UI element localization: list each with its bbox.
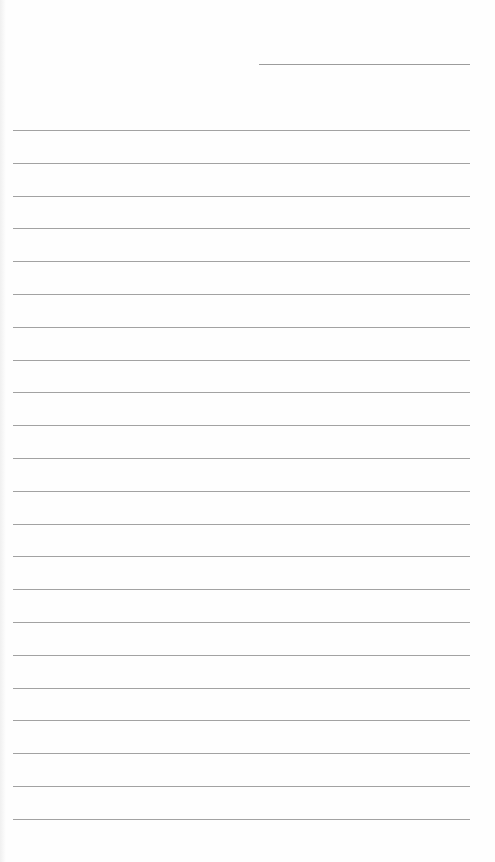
ruled-line (13, 228, 470, 229)
ruled-line (13, 392, 470, 393)
ruled-line (13, 163, 470, 164)
ruled-line (13, 622, 470, 623)
ruled-line (13, 524, 470, 525)
ruled-line (13, 819, 470, 820)
ruled-line (13, 458, 470, 459)
header-date-line (259, 64, 470, 65)
lined-paper-page (0, 0, 495, 862)
ruled-line (13, 720, 470, 721)
ruled-line (13, 425, 470, 426)
ruled-line (13, 556, 470, 557)
ruled-line (13, 688, 470, 689)
ruled-line (13, 261, 470, 262)
ruled-line (13, 130, 470, 131)
ruled-line (13, 491, 470, 492)
ruled-line (13, 589, 470, 590)
page-edge-shadow (0, 0, 6, 862)
ruled-line (13, 360, 470, 361)
ruled-line (13, 786, 470, 787)
ruled-line (13, 196, 470, 197)
ruled-line (13, 327, 470, 328)
ruled-line (13, 655, 470, 656)
ruled-line (13, 294, 470, 295)
ruled-line (13, 753, 470, 754)
